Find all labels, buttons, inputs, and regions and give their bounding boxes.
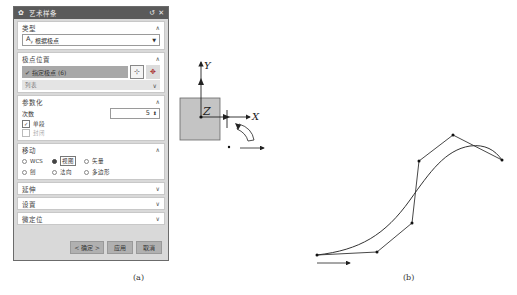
control-point[interactable] (452, 134, 455, 137)
control-point[interactable] (411, 222, 414, 225)
view-triad[interactable]: Z Y X (180, 60, 264, 148)
spline-figure (316, 134, 504, 264)
figure-canvas: Z Y X (0, 0, 517, 295)
caption-a: (a) (133, 273, 144, 282)
x-axis-label: X (251, 111, 260, 122)
caption-b: (b) (403, 273, 414, 282)
control-point[interactable] (501, 159, 504, 162)
y-axis-label: Y (204, 60, 212, 71)
control-polygon (317, 135, 502, 255)
spline-curve (317, 146, 502, 255)
direction-dot (228, 146, 230, 148)
control-point[interactable] (376, 251, 379, 254)
control-point[interactable] (418, 160, 421, 163)
control-point[interactable] (316, 254, 319, 257)
y-axis-arrow-icon (198, 78, 204, 85)
x-axis-arrow-icon (223, 114, 230, 120)
z-axis-label: Z (202, 105, 211, 118)
view-plane-square (180, 98, 220, 140)
control-points (316, 134, 504, 257)
